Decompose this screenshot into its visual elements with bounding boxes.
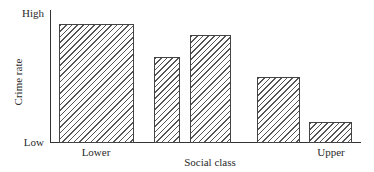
x-tick-upper: Upper xyxy=(301,146,361,158)
x-tick-lower: Lower xyxy=(66,146,126,158)
bar xyxy=(309,122,352,143)
x-axis-label: Social class xyxy=(160,156,260,168)
bar xyxy=(154,57,180,143)
y-axis-label: Crime rate xyxy=(12,42,24,122)
y-tick-low: Low xyxy=(0,137,44,148)
y-axis-line xyxy=(50,10,51,143)
bar xyxy=(190,35,231,143)
bar xyxy=(59,24,134,143)
y-tick-high: High xyxy=(0,8,44,19)
bar xyxy=(257,77,300,143)
